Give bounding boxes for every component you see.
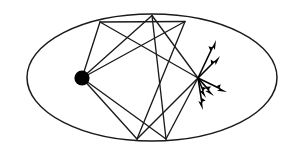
- source-point-node: [74, 70, 89, 85]
- figure-background: [0, 0, 294, 150]
- ray-top-left-to-top-right: [100, 22, 185, 23]
- ray-diagram-svg: Elliptical billiard ray trajectory diagr…: [0, 0, 294, 150]
- figure-container: Elliptical billiard ray trajectory diagr…: [0, 0, 294, 150]
